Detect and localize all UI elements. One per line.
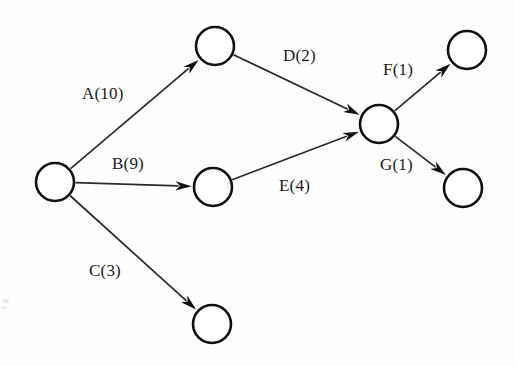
edge-a-label: A(10) (82, 85, 124, 102)
edge-f-label: F(1) (383, 61, 413, 78)
edge-b-line (75, 183, 178, 186)
diagram-canvas: A(10)B(9)C(3)D(2)E(4)F(1)G(1) (0, 0, 515, 366)
edge-c (70, 196, 196, 310)
edge-d-label: D(2) (283, 47, 316, 64)
upper-middle-node[interactable] (196, 27, 234, 65)
lower-middle-node[interactable] (193, 305, 231, 343)
hub-node[interactable] (360, 105, 398, 143)
edge-e (232, 132, 359, 180)
lower-right-node[interactable] (444, 169, 482, 207)
edge-b-label: B(9) (112, 155, 144, 172)
nodes-layer (36, 27, 486, 343)
edge-g-arrowhead-icon (430, 162, 446, 175)
edge-e-label: E(4) (279, 177, 310, 194)
edge-d-arrowhead-icon (343, 104, 359, 115)
scan-artifact (2, 306, 6, 309)
edge-g-label: G(1) (380, 156, 413, 173)
upper-right-node[interactable] (448, 31, 486, 69)
edge-c-label: C(3) (89, 262, 121, 279)
edge-c-line (70, 196, 186, 301)
edge-a (71, 60, 199, 169)
edges-layer (70, 55, 450, 310)
center-middle-node[interactable] (194, 168, 232, 206)
scan-artifact (3, 299, 9, 303)
graph-svg (0, 0, 515, 366)
edge-e-line (232, 136, 347, 179)
start-node[interactable] (36, 163, 74, 201)
edge-b (75, 181, 191, 190)
